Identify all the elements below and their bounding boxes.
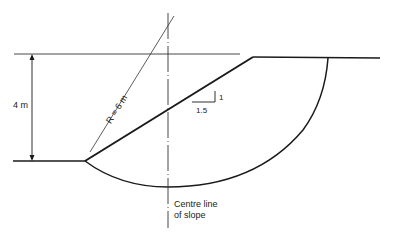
slope-horizontal-label: 1.5	[196, 105, 207, 116]
arrow-down-icon	[30, 155, 35, 161]
crest-ground-line	[253, 57, 380, 58]
arrow-up-icon	[30, 54, 35, 60]
slope-vertical-label: 1	[219, 92, 223, 103]
centre-line-label-1: Centre line	[174, 199, 218, 210]
height-label: 4 m	[13, 100, 28, 111]
slip-circle-arc	[85, 58, 328, 187]
centre-line-label-2: of slope	[174, 210, 206, 221]
